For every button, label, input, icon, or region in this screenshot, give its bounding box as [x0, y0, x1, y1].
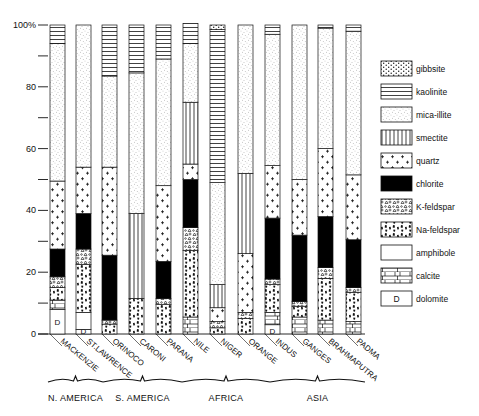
- segment-K-feldspar: [210, 322, 225, 328]
- legend-swatch: [381, 61, 412, 76]
- segment-quartz: [238, 254, 253, 313]
- y-tick-label: 100%: [13, 20, 36, 30]
- segment-K-feldspar: [50, 277, 65, 288]
- legend-item-k-feldspar: K-feldspar: [381, 199, 455, 214]
- segment-mica-illite: [50, 44, 65, 182]
- legend-swatch: [381, 222, 412, 237]
- segment-quartz: [76, 167, 91, 213]
- x-tick-label: NILE: [192, 337, 211, 355]
- bar-orinoco: [102, 25, 117, 334]
- legend-label: quartz: [416, 156, 440, 166]
- segment-chlorite: [102, 255, 117, 320]
- segment-Na-feldspar: [183, 251, 198, 317]
- segment-chlorite: [292, 235, 307, 301]
- bar-ganges: [292, 25, 307, 334]
- segment-amphibole: [76, 312, 91, 329]
- legend-item-na-feldspar: Na-feldspar: [381, 222, 460, 237]
- legend-swatch: [381, 107, 412, 122]
- y-tick-label: 0: [31, 329, 36, 339]
- segment-mica-illite: [292, 25, 307, 180]
- segment-mica-illite: [156, 59, 171, 186]
- legend-label: smectite: [416, 133, 448, 143]
- segment-calcite: [318, 320, 333, 334]
- segment-quartz: [183, 164, 198, 179]
- segment-kaolinite: [346, 25, 361, 31]
- segment-mica-illite: [346, 31, 361, 175]
- segment-K-feldspar: [102, 320, 117, 324]
- segment-kaolinite: [156, 25, 171, 59]
- segment-kaolinite: [129, 25, 144, 73]
- segment-calcite: [292, 317, 307, 334]
- legend-label: K-feldspar: [416, 202, 455, 212]
- segment-quartz: [346, 175, 361, 240]
- segment-mica-illite: [238, 25, 253, 173]
- segment-calcite: [346, 322, 361, 334]
- segment-Na-feldspar: [318, 278, 333, 320]
- segment-chlorite: [156, 261, 171, 298]
- region-label: N. AMERICA: [48, 393, 103, 403]
- segment-smectite: [210, 285, 225, 308]
- segment-mica-illite: [183, 44, 198, 103]
- segment-mica-illite: [102, 76, 117, 167]
- segment-chlorite: [346, 240, 361, 288]
- dolomite-glyph: D: [270, 327, 276, 336]
- y-tick-label: 40: [26, 205, 36, 215]
- bar-brahmaputra: [318, 25, 333, 334]
- segment-Na-feldspar: [346, 292, 361, 321]
- segment-kaolinite: [210, 30, 225, 183]
- bar-indus: D: [265, 25, 280, 336]
- x-axis-labels: MACKENZIEST.LAWRENCEORINOCOCARONIPARANAN…: [50, 334, 382, 383]
- segment-mica-illite: [318, 28, 333, 149]
- legend-item-mica-illite: mica-illite: [381, 107, 452, 122]
- segment-chlorite: [318, 217, 333, 268]
- legend-label: amphibole: [416, 248, 455, 258]
- legend-item-gibbsite: gibbsite: [381, 61, 446, 76]
- region-label: S. AMERICA: [115, 393, 170, 403]
- segment-mica-illite: [129, 73, 144, 214]
- legend-label: kaolinite: [416, 87, 447, 97]
- segment-Na-feldspar: [238, 319, 253, 334]
- legend-item-dolomite: Ddolomite: [381, 291, 448, 306]
- segment-smectite: [238, 173, 253, 253]
- y-tick-label: 60: [26, 144, 36, 154]
- segment-K-feldspar: [292, 302, 307, 307]
- legend-swatch: [381, 199, 412, 214]
- region-label: ASIA: [307, 393, 329, 403]
- bars: DDD: [50, 23, 361, 335]
- segment-Na-feldspar: [156, 305, 171, 334]
- segment-kaolinite: [50, 25, 65, 44]
- legend-swatch: [381, 268, 412, 283]
- legend-label: Na-feldspar: [416, 225, 460, 235]
- segment-Na-feldspar: [292, 306, 307, 317]
- legend-label: mica-illite: [416, 110, 452, 120]
- legend-label: dolomite: [416, 294, 448, 304]
- legend-swatch: [381, 84, 412, 99]
- legend-item-calcite: calcite: [381, 268, 440, 283]
- legend-item-quartz: quartz: [381, 153, 440, 168]
- segment-calcite: [183, 317, 198, 334]
- x-tick-label: INDUS: [274, 337, 299, 360]
- segment-quartz: [265, 166, 280, 219]
- segment-kaolinite: [318, 25, 333, 28]
- segment-kaolinite: [265, 25, 280, 34]
- segment-Na-feldspar: [50, 288, 65, 300]
- segment-Na-feldspar: [76, 264, 91, 312]
- segment-quartz: [156, 186, 171, 262]
- dolomite-glyph: D: [393, 294, 399, 304]
- segment-quartz: [50, 181, 65, 249]
- segment-kaolinite: [102, 25, 117, 76]
- segment-quartz: [102, 167, 117, 255]
- bar-nile: [183, 23, 198, 334]
- segment-calcite: [50, 300, 65, 309]
- bar-niger: [210, 25, 225, 334]
- segment-quartz: [292, 180, 307, 236]
- segment-Na-feldspar: [102, 324, 117, 334]
- x-tick-label: PARANA: [165, 337, 196, 365]
- segment-K-feldspar: [156, 298, 171, 304]
- segment-K-feldspar: [183, 227, 198, 250]
- segment-K-feldspar: [318, 268, 333, 279]
- legend-label: gibbsite: [416, 64, 446, 74]
- x-tick-label: ORANGE: [247, 337, 279, 366]
- segment-mica-illite: [265, 34, 280, 165]
- y-tick-label: 80: [26, 82, 36, 92]
